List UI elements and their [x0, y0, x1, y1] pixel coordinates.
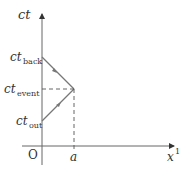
origin-label: O [28, 148, 38, 162]
ct-back-label: ct [10, 50, 22, 64]
ct-back-subscript: back [23, 57, 42, 66]
spacetime-diagram: ct x 1 O a ct back ct event ct out [0, 0, 189, 170]
return-ray [42, 57, 74, 89]
ct-out-subscript: out [29, 121, 43, 130]
x-axis-superscript: 1 [175, 147, 180, 156]
ct-event-label: ct [4, 82, 16, 96]
ct-out-label: ct [16, 114, 28, 128]
diagram-canvas: ct x 1 O a ct back ct event ct out [0, 0, 189, 170]
ct-event-subscript: event [17, 89, 40, 98]
x-axis-label: x [167, 150, 174, 164]
ct-axis-label: ct [18, 7, 31, 22]
x-tick-label-a: a [70, 150, 77, 164]
